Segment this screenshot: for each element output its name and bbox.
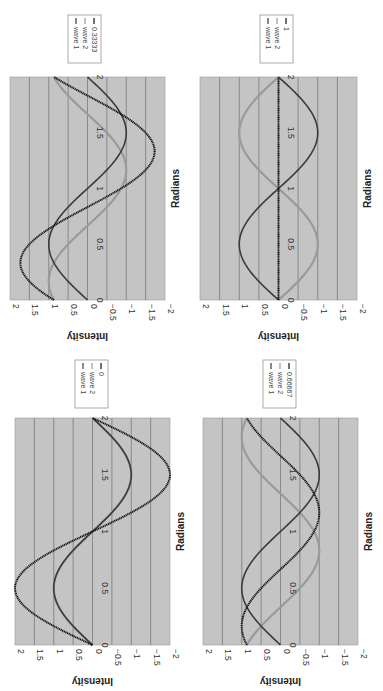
y-tick-label: 0 — [280, 304, 290, 309]
y-tick-label: −2 — [166, 304, 176, 314]
y-tick-label: −0.5 — [108, 304, 118, 321]
x-tick-label: 0 — [100, 643, 110, 648]
x-tick-label: 1 — [95, 186, 105, 191]
y-tick-label: 2 — [11, 304, 21, 309]
x-axis-label: Radians — [170, 169, 181, 208]
y-tick-label: −2 — [171, 649, 181, 659]
y-tick-label: −1.5 — [340, 649, 350, 666]
chart-panel-top-left: 21.510.50−0.5−1−1.5−200.511.52IntensityR… — [10, 15, 181, 342]
x-tick-label: 2 — [288, 416, 298, 421]
y-tick-label: 1 — [240, 304, 250, 309]
y-tick-label: −1.5 — [147, 304, 157, 321]
legend-label: 1 — [283, 27, 290, 31]
y-tick-label: 0 — [94, 649, 104, 654]
y-tick-label: 1.5 — [35, 649, 45, 661]
y-tick-label: −1 — [320, 649, 330, 659]
y-tick-label: 0.5 — [74, 649, 84, 661]
y-tick-label: −1 — [127, 304, 137, 314]
legend: wave 1wave 21 — [260, 15, 293, 63]
legend-label: wave 1 — [73, 26, 80, 49]
y-tick-label: 1 — [50, 304, 60, 309]
x-tick-label: 1.5 — [100, 469, 110, 481]
x-axis-label: Radians — [362, 169, 373, 208]
x-tick-label: 0.5 — [286, 238, 296, 250]
y-tick-label: 0.5 — [260, 304, 270, 316]
x-tick-label: 2 — [95, 75, 105, 80]
y-tick-label: 0.5 — [69, 304, 79, 316]
y-tick-label: −1 — [319, 304, 329, 314]
chart-panel-bottom-left: 21.510.50−0.5−1−1.5−200.511.52IntensityR… — [15, 360, 186, 687]
y-tick-label: 1 — [55, 649, 65, 654]
legend-label: 0.33333 — [91, 27, 98, 52]
y-tick-label: 2 — [16, 649, 26, 654]
y-tick-label: 0 — [89, 304, 99, 309]
y-tick-label: −0.5 — [301, 649, 311, 666]
y-tick-label: −0.5 — [113, 649, 123, 666]
legend-label: wave 2 — [89, 371, 96, 394]
legend: wave 1wave 20.33333 — [68, 15, 101, 63]
legend-label: wave 1 — [265, 26, 272, 49]
y-tick-label: −1.5 — [152, 649, 162, 666]
legend: wave 1wave 20 — [75, 360, 108, 408]
x-axis-label: Radians — [363, 512, 374, 551]
y-tick-label: −1.5 — [338, 304, 348, 321]
y-tick-label: 1 — [243, 649, 253, 654]
y-tick-label: 0 — [282, 649, 292, 654]
x-axis-label: Radians — [175, 512, 186, 551]
legend-label: 0.66667 — [286, 372, 293, 397]
x-tick-label: 0.5 — [95, 238, 105, 250]
y-tick-label: −2 — [358, 304, 368, 314]
legend-label: 0 — [98, 372, 105, 376]
y-tick-label: 2 — [201, 304, 211, 309]
legend: wave 1wave 20.66667 — [263, 360, 296, 408]
x-tick-label: 1.5 — [286, 127, 296, 139]
x-tick-label: 0 — [286, 298, 296, 303]
y-tick-label: 1.5 — [223, 649, 233, 661]
y-tick-label: 1.5 — [30, 304, 40, 316]
legend-label: wave 2 — [277, 371, 284, 394]
x-tick-label: 1.5 — [288, 469, 298, 481]
chart-panel-top-right: 21.510.50−0.5−1−1.5−200.511.52IntensityR… — [200, 15, 373, 342]
y-tick-label: 1.5 — [221, 304, 231, 316]
legend-label: wave 2 — [274, 26, 281, 49]
x-tick-label: 2 — [286, 75, 296, 80]
x-tick-label: 0.5 — [288, 582, 298, 594]
x-tick-label: 1 — [286, 186, 296, 191]
chart-canvas: 21.510.50−0.5−1−1.5−200.511.52IntensityR… — [0, 0, 383, 691]
chart-panel-bottom-right: 21.510.50−0.5−1−1.5−200.511.52IntensityR… — [203, 360, 374, 687]
x-tick-label: 1 — [100, 529, 110, 534]
y-axis-label: Intensity — [67, 331, 109, 342]
x-tick-label: 0 — [95, 298, 105, 303]
x-tick-label: 1 — [288, 529, 298, 534]
x-tick-label: 2 — [100, 416, 110, 421]
x-tick-label: 0.5 — [100, 582, 110, 594]
y-axis-label: Intensity — [260, 676, 302, 687]
legend-label: wave 2 — [82, 26, 89, 49]
figure-page: 21.510.50−0.5−1−1.5−200.511.52IntensityR… — [0, 0, 383, 691]
y-tick-label: −0.5 — [299, 304, 309, 321]
y-axis-label: Intensity — [72, 676, 114, 687]
y-tick-label: 0.5 — [262, 649, 272, 661]
y-tick-label: −1 — [132, 649, 142, 659]
y-tick-label: −2 — [359, 649, 369, 659]
legend-label: wave 1 — [80, 371, 87, 394]
y-axis-label: Intensity — [258, 331, 300, 342]
x-tick-label: 0 — [288, 643, 298, 648]
legend-label: wave 1 — [268, 371, 275, 394]
y-tick-label: 2 — [204, 649, 214, 654]
x-tick-label: 1.5 — [95, 127, 105, 139]
